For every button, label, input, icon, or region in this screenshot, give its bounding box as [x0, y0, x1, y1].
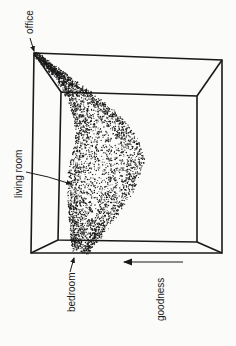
surface-stipple-dot — [68, 94, 69, 95]
surface-stipple-dot — [39, 54, 40, 55]
surface-stipple-dot — [121, 118, 123, 120]
surface-stipple-dot — [94, 107, 95, 108]
surface-stipple-dot — [100, 232, 101, 233]
surface-stipple-dot — [42, 63, 43, 64]
surface-stipple-dot — [87, 193, 88, 194]
surface-stipple-dot — [101, 192, 102, 193]
surface-stipple-dot — [111, 160, 112, 161]
goodness-axis: goodness — [124, 262, 183, 321]
surface-stipple-dot — [77, 242, 78, 243]
surface-stipple-dot — [98, 222, 99, 223]
surface-stipple-dot — [97, 224, 98, 225]
surface-stipple-dot — [101, 193, 102, 194]
surface-stipple-dot — [97, 193, 98, 194]
surface-stipple-dot — [99, 100, 100, 101]
surface-stipple-dot — [116, 202, 117, 203]
surface-stipple-dot — [98, 136, 99, 137]
surface-stipple-dot — [81, 164, 82, 165]
surface-stipple-dot — [71, 102, 72, 103]
surface-stipple-dot — [124, 146, 125, 147]
surface-stipple-dot — [124, 150, 125, 151]
surface-stipple-dot — [90, 124, 91, 125]
surface-stipple-dot — [90, 244, 91, 245]
surface-stipple-dot — [73, 182, 74, 183]
surface-stipple-dot — [46, 62, 47, 63]
surface-stipple-dot — [38, 53, 39, 54]
surface-stipple-dot — [102, 187, 103, 188]
surface-stipple-dot — [105, 181, 106, 182]
surface-stipple-dot — [82, 214, 83, 215]
surface-stipple-dot — [78, 87, 80, 89]
surface-stipple-dot — [135, 157, 136, 158]
surface-stipple-dot — [75, 91, 76, 92]
surface-stipple-dot — [121, 207, 122, 208]
surface-stipple-dot — [59, 82, 60, 83]
surface-stipple-dot — [115, 134, 116, 135]
surface-stipple-dot — [80, 121, 81, 122]
surface-stipple-dot — [89, 202, 90, 203]
surface-stipple-dot — [77, 224, 78, 225]
surface-stipple-dot — [76, 249, 77, 250]
surface-stipple-dot — [109, 109, 110, 110]
surface-stipple-dot — [90, 127, 91, 128]
surface-stipple-dot — [77, 146, 78, 147]
surface-stipple-dot — [139, 151, 140, 152]
surface-stipple-dot — [106, 154, 108, 156]
surface-stipple-dot — [75, 153, 77, 155]
surface-stipple-dot — [138, 173, 139, 174]
surface-stipple-dot — [112, 199, 113, 200]
surface-stipple-dot — [79, 150, 81, 152]
surface-stipple-dot — [78, 239, 80, 241]
surface-stipple-dot — [78, 179, 79, 180]
surface-stipple-dot — [134, 168, 135, 169]
surface-stipple-dot — [77, 201, 78, 202]
label-living-room: living room — [13, 150, 24, 198]
surface-stipple-dot — [81, 88, 82, 89]
surface-stipple-dot — [119, 118, 120, 119]
surface-stipple-dot — [134, 183, 135, 184]
surface-stipple-dot — [100, 129, 101, 130]
surface-stipple-dot — [94, 229, 95, 230]
surface-stipple-dot — [89, 154, 90, 155]
bedroom-pointer-arrow — [70, 258, 74, 272]
surface-stipple-dot — [112, 210, 113, 211]
surface-stipple-dot — [74, 105, 75, 106]
surface-stipple-dot — [112, 119, 113, 120]
label-goodness: goodness — [155, 278, 166, 321]
surface-stipple-dot — [83, 166, 84, 167]
surface-stipple-dot — [127, 124, 128, 125]
surface-stipple-dot — [125, 136, 127, 138]
surface-stipple-dot — [74, 209, 75, 210]
surface-stipple-dot — [133, 189, 134, 190]
surface-stipple-dot — [44, 63, 45, 64]
surface-stipple-dot — [86, 124, 87, 125]
surface-stipple-dot — [100, 220, 101, 221]
surface-stipple-dot — [72, 243, 73, 244]
surface-stipple-dot — [74, 194, 75, 195]
surface-stipple-dot — [99, 166, 100, 167]
surface-stipple-dot — [95, 224, 96, 225]
surface-stipple-dot — [107, 106, 108, 107]
surface-stipple-dot — [100, 116, 102, 118]
surface-stipple-dot — [99, 212, 100, 213]
surface-stipple-dot — [122, 206, 123, 207]
surface-stipple-dot — [82, 90, 83, 91]
surface-stipple-dot — [75, 196, 76, 197]
surface-stipple-dot — [87, 223, 88, 224]
surface-stipple-dot — [78, 187, 79, 188]
surface-stipple-dot — [106, 206, 107, 207]
surface-stipple-dot — [133, 142, 134, 143]
surface-stipple-dot — [70, 91, 71, 92]
surface-stipple-dot — [94, 140, 95, 141]
surface-stipple-dot — [120, 155, 121, 156]
surface-stipple-dot — [86, 232, 87, 233]
surface-stipple-dot — [83, 228, 84, 229]
surface-stipple-dot — [69, 212, 71, 214]
surface-stipple-dot — [69, 220, 70, 221]
surface-stipple-dot — [122, 128, 123, 129]
surface-stipple-dot — [84, 231, 85, 232]
surface-stipple-dot — [79, 240, 80, 241]
surface-stipple-dot — [103, 116, 104, 117]
surface-stipple-dot — [132, 177, 133, 178]
surface-stipple-dot — [78, 115, 79, 116]
